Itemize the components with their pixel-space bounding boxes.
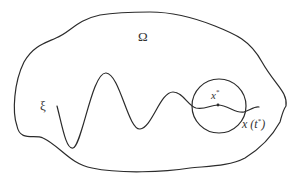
x-t-star-label: x (t*) xyxy=(242,118,265,130)
domain-boundary xyxy=(14,12,286,172)
diagram-canvas xyxy=(0,0,301,186)
xi-label: ξ xyxy=(40,99,46,112)
x-star-point xyxy=(217,104,220,107)
x-t-star-suffix: ) xyxy=(261,117,265,131)
x-star-superscript: * xyxy=(216,88,220,96)
x-star-label: x* xyxy=(211,89,219,101)
x-t-star-prefix: x (t xyxy=(242,117,258,131)
omega-label: Ω xyxy=(138,30,148,43)
trajectory-curve xyxy=(57,73,259,148)
